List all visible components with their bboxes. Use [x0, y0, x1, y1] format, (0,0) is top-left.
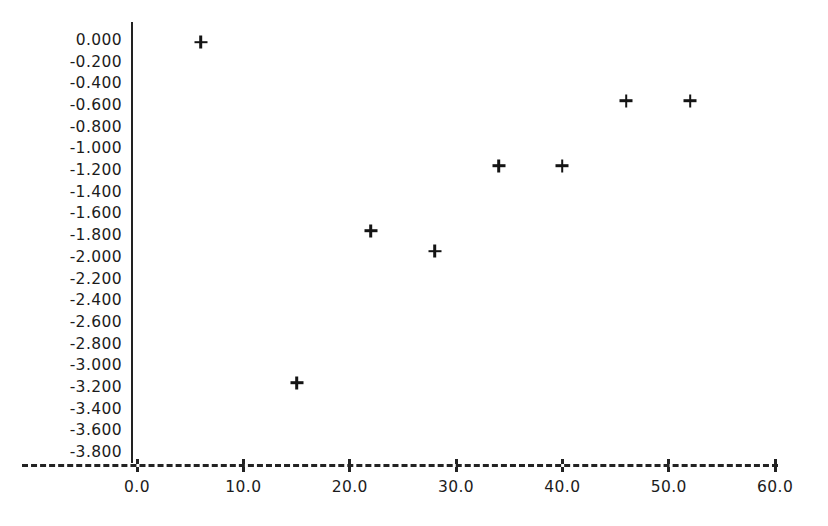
y-axis-tick-label: -1.400: [0, 185, 122, 201]
x-axis-tick-label: 0.0: [124, 479, 150, 495]
data-point-marker: [290, 376, 303, 389]
x-axis-tick-label: 50.0: [651, 479, 687, 495]
y-axis-tick-label: -1.600: [0, 206, 122, 222]
x-axis-tick-mark: [348, 459, 351, 472]
data-point-marker: [428, 245, 441, 258]
y-axis-tick-label-group: 0.000-0.200-0.400-0.600-0.800-1.000-1.20…: [0, 0, 122, 470]
y-axis-tick-label: -1.200: [0, 163, 122, 179]
scatter-plot-figure: 0.000-0.200-0.400-0.600-0.800-1.000-1.20…: [0, 0, 828, 526]
y-axis-tick-label: -2.600: [0, 315, 122, 331]
y-axis-tick-label: -2.000: [0, 250, 122, 266]
y-axis-tick-label: -0.400: [0, 76, 122, 92]
y-axis-line: [131, 22, 133, 463]
x-axis-tick-mark: [455, 459, 458, 472]
x-axis-tick-mark: [774, 459, 777, 472]
data-point-marker: [684, 94, 697, 107]
y-axis-tick-label: -2.800: [0, 337, 122, 353]
x-axis-tick-label: 40.0: [544, 479, 580, 495]
y-axis-tick-label: -3.600: [0, 423, 122, 439]
y-axis-tick-label: -1.800: [0, 228, 122, 244]
x-axis-tick-label: 10.0: [225, 479, 261, 495]
y-axis-tick-label: -2.200: [0, 272, 122, 288]
x-axis-tick-mark: [242, 459, 245, 472]
y-axis-tick-label: -3.000: [0, 358, 122, 374]
data-point-marker: [194, 36, 207, 49]
data-point-marker: [492, 159, 505, 172]
y-axis-tick-label: -0.800: [0, 120, 122, 136]
y-axis-tick-label: -3.200: [0, 380, 122, 396]
y-axis-tick-label: 0.000: [0, 33, 122, 49]
y-axis-tick-label: -0.200: [0, 55, 122, 71]
x-axis-tick-label: 20.0: [332, 479, 368, 495]
y-axis-tick-label: -1.000: [0, 141, 122, 157]
x-axis-tick-label: 60.0: [757, 479, 793, 495]
y-axis-tick-label: -2.400: [0, 293, 122, 309]
x-axis-tick-label: 30.0: [438, 479, 474, 495]
data-point-marker: [556, 159, 569, 172]
y-axis-tick-label: -0.600: [0, 98, 122, 114]
x-axis-tick-mark: [136, 459, 139, 472]
x-axis-tick-mark: [561, 459, 564, 472]
x-axis-tick-mark: [667, 459, 670, 472]
data-point-marker: [364, 224, 377, 237]
data-point-marker: [620, 94, 633, 107]
y-axis-tick-label: -3.800: [0, 445, 122, 461]
y-axis-tick-label: -3.400: [0, 402, 122, 418]
